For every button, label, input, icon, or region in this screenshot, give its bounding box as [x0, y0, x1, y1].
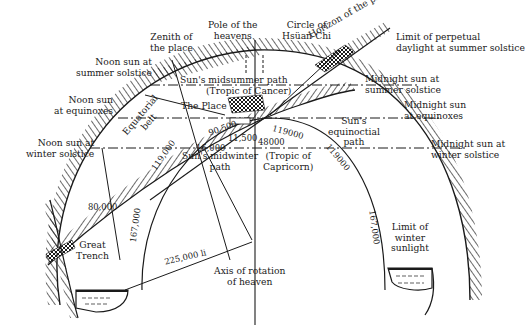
midnight-equinox-label: Midnight sun at equinoxes	[404, 100, 466, 121]
dist-80000: 80,000	[88, 202, 117, 213]
the-place-label: The Place	[181, 101, 227, 112]
noon-summer-label: Noon sun at summer solstice	[76, 57, 152, 78]
equinoctial-path-label: Sun's equinoctial path	[328, 116, 380, 148]
winter-sunlight-label: Limit of winter sunlight	[391, 222, 429, 254]
dist-16000: 16,000	[196, 143, 225, 154]
zenith-label: Zenith of the place	[150, 32, 193, 53]
tropic-cancer-label: (Tropic of Cancer)	[206, 86, 291, 97]
great-trench-label: Great Trench	[76, 240, 109, 261]
midnight-summer-label: Midnight sun at summer solstice	[365, 74, 441, 95]
winter-trench	[388, 268, 434, 315]
axis-label: Axis of rotation of heaven	[214, 266, 285, 287]
tropic-capricorn-label: (Tropic of Capricorn)	[263, 151, 313, 172]
midwinter-path-label: Sun's midwinter path	[182, 151, 258, 172]
midsummer-path-label: Sun's midsummer path	[180, 75, 288, 86]
perpetual-daylight-label: Limit of perpetual daylight at summer so…	[396, 32, 525, 53]
dist-48000: 48000	[258, 137, 285, 148]
dist-11500: 11,500	[228, 133, 257, 144]
pole-label: Pole of the heavens	[208, 20, 258, 41]
the-place-marker	[228, 95, 265, 113]
noon-equinox-label: Noon sun at equinoxes	[54, 95, 113, 116]
midnight-winter-label: Midnight sun at winter solstice	[431, 139, 505, 160]
noon-winter-label: Noon sun at winter solstice	[26, 138, 94, 159]
